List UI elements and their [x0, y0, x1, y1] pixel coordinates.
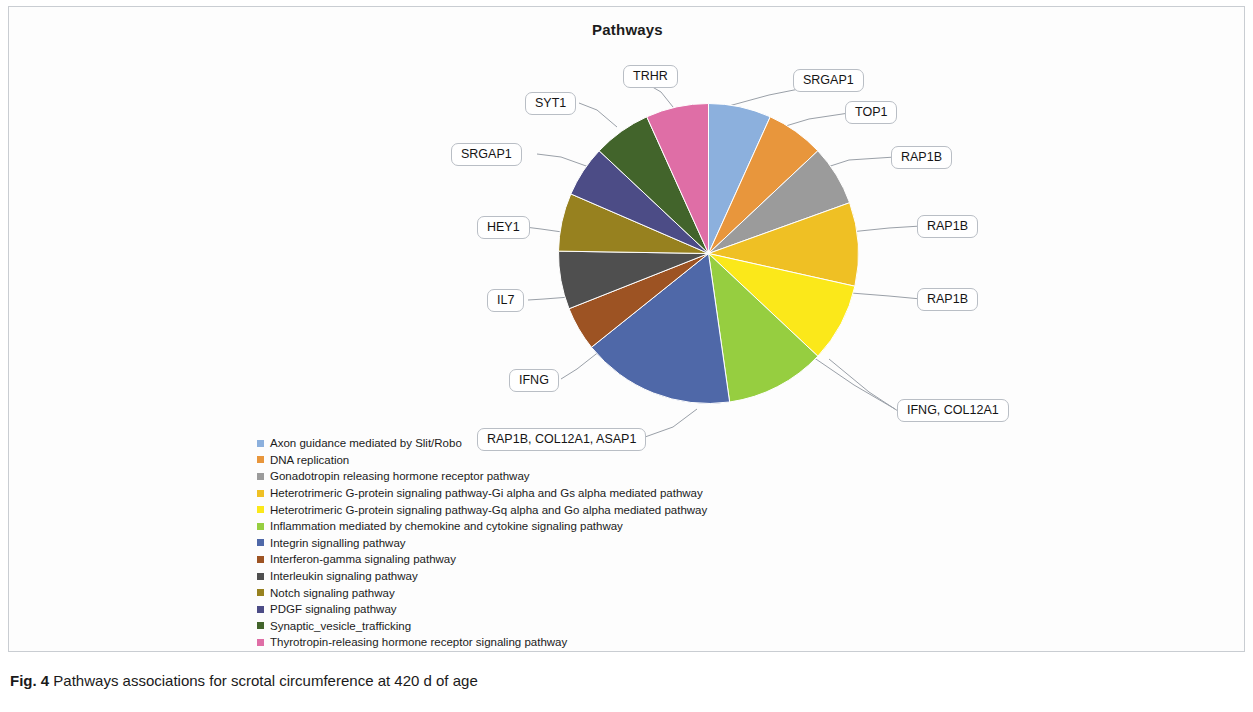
legend-color-swatch: [257, 456, 264, 463]
legend-item-label: Axon guidance mediated by Slit/Robo: [270, 437, 462, 449]
caption-label: Fig. 4: [10, 672, 49, 689]
legend-item-label: Interferon-gamma signaling pathway: [270, 553, 456, 565]
legend-item[interactable]: Gonadotropin releasing hormone receptor …: [257, 468, 707, 485]
legend-item[interactable]: Synaptic_vesicle_trafficking: [257, 618, 707, 635]
callout-trhr[interactable]: TRHR: [623, 65, 678, 88]
legend-item-label: DNA replication: [270, 454, 349, 466]
legend-item-label: Interleukin signaling pathway: [270, 570, 418, 582]
legend-color-swatch: [257, 490, 264, 497]
callout-ifng[interactable]: IFNG: [509, 369, 559, 392]
legend-color-swatch: [257, 606, 264, 613]
caption-text: Pathways associations for scrotal circum…: [53, 672, 477, 689]
callout-rap1b-2[interactable]: RAP1B: [917, 215, 978, 238]
legend-item[interactable]: Interferon-gamma signaling pathway: [257, 551, 707, 568]
legend-color-swatch: [257, 506, 264, 513]
callout-ifng-col12a1[interactable]: IFNG, COL12A1: [897, 399, 1009, 422]
callout-srgap1-top[interactable]: SRGAP1: [793, 69, 864, 92]
callout-il7[interactable]: IL7: [487, 289, 524, 312]
legend-item[interactable]: Notch signaling pathway: [257, 584, 707, 601]
legend-color-swatch: [257, 556, 264, 563]
legend-color-swatch: [257, 473, 264, 480]
pie-svg: [556, 101, 861, 406]
chart-title: Pathways: [9, 21, 1246, 38]
legend-item-label: PDGF signaling pathway: [270, 603, 397, 615]
legend-color-swatch: [257, 622, 264, 629]
callout-rap1b-3[interactable]: RAP1B: [917, 288, 978, 311]
legend-item[interactable]: Heterotrimeric G-protein signaling pathw…: [257, 485, 707, 502]
legend-item-label: Gonadotropin releasing hormone receptor …: [270, 470, 530, 482]
legend-item[interactable]: Integrin signalling pathway: [257, 535, 707, 552]
legend-item-label: Integrin signalling pathway: [270, 537, 406, 549]
legend-color-swatch: [257, 573, 264, 580]
figure-panel: Pathways SRGAP1 TOP1 RAP1B RAP1B RAP1B I…: [8, 6, 1245, 652]
legend-item-label: Inflammation mediated by chemokine and c…: [270, 520, 623, 532]
legend-color-swatch: [257, 523, 264, 530]
legend-item-label: Heterotrimeric G-protein signaling pathw…: [270, 504, 707, 516]
pathways-legend: Axon guidance mediated by Slit/RoboDNA r…: [257, 435, 707, 651]
legend-item[interactable]: Axon guidance mediated by Slit/Robo: [257, 435, 707, 452]
legend-color-swatch: [257, 539, 264, 546]
legend-item-label: Notch signaling pathway: [270, 587, 395, 599]
legend-item[interactable]: DNA replication: [257, 452, 707, 469]
legend-item[interactable]: Thyrotropin-releasing hormone receptor s…: [257, 634, 707, 651]
callout-top1[interactable]: TOP1: [845, 101, 897, 124]
callout-rap1b-1[interactable]: RAP1B: [891, 146, 952, 169]
legend-item[interactable]: Interleukin signaling pathway: [257, 568, 707, 585]
legend-color-swatch: [257, 639, 264, 646]
pathways-pie-chart: [556, 101, 861, 406]
legend-item[interactable]: Inflammation mediated by chemokine and c…: [257, 518, 707, 535]
legend-item-label: Thyrotropin-releasing hormone receptor s…: [270, 636, 567, 648]
legend-item[interactable]: PDGF signaling pathway: [257, 601, 707, 618]
callout-srgap1-left[interactable]: SRGAP1: [451, 143, 522, 166]
legend-color-swatch: [257, 440, 264, 447]
figure-caption: Fig. 4 Pathways associations for scrotal…: [10, 672, 1110, 689]
callout-hey1[interactable]: HEY1: [477, 216, 530, 239]
legend-item-label: Synaptic_vesicle_trafficking: [270, 620, 411, 632]
legend-item-label: Heterotrimeric G-protein signaling pathw…: [270, 487, 703, 499]
legend-item[interactable]: Heterotrimeric G-protein signaling pathw…: [257, 501, 707, 518]
callout-syt1[interactable]: SYT1: [525, 92, 576, 115]
legend-color-swatch: [257, 589, 264, 596]
